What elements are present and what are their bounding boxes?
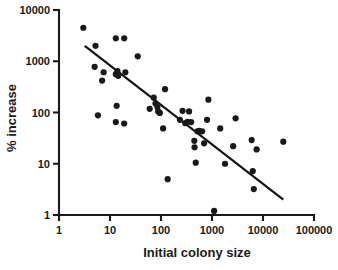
data-point <box>151 95 157 101</box>
data-point <box>114 103 120 109</box>
data-point <box>188 119 194 125</box>
data-point <box>157 110 163 116</box>
y-tick-label: 1000 <box>26 55 50 67</box>
scatter-plot-figure: 110100100010000 110100100010000100000 In… <box>0 0 338 270</box>
data-point <box>280 139 286 145</box>
data-point <box>193 160 199 166</box>
x-tick-label: 100000 <box>296 224 333 236</box>
x-tick-label: 10 <box>104 224 116 236</box>
y-axis: 110100100010000 <box>19 4 59 221</box>
data-point <box>99 77 105 83</box>
data-point <box>179 108 185 114</box>
y-tick-label: 100 <box>32 107 50 119</box>
data-point <box>92 43 98 49</box>
x-tick-label: 1000 <box>200 224 224 236</box>
x-axis: 110100100010000100000 <box>56 215 332 236</box>
data-point <box>204 117 210 123</box>
x-tick-label: 10000 <box>248 224 279 236</box>
data-point <box>122 69 128 75</box>
data-point <box>113 119 119 125</box>
data-points <box>80 25 286 214</box>
chart-canvas: 110100100010000 110100100010000100000 In… <box>0 0 338 270</box>
data-point <box>162 86 168 92</box>
y-tick-label: 10000 <box>19 4 50 16</box>
data-point <box>147 106 153 112</box>
data-point <box>165 176 171 182</box>
data-point <box>254 146 260 152</box>
data-point <box>115 73 121 79</box>
x-tick-label: 1 <box>56 224 62 236</box>
data-point <box>186 108 192 114</box>
y-tick-label: 10 <box>38 158 50 170</box>
data-point <box>95 112 101 118</box>
data-point <box>121 120 127 126</box>
data-point <box>250 168 256 174</box>
x-tick-label: 100 <box>152 224 170 236</box>
data-point <box>135 53 141 59</box>
data-point <box>121 35 127 41</box>
data-point <box>191 138 197 144</box>
data-point <box>191 144 197 150</box>
data-point <box>177 117 183 123</box>
x-axis-title: Initial colony size <box>143 245 251 260</box>
data-point <box>211 208 217 214</box>
data-point <box>217 125 223 131</box>
y-axis-title: % increase <box>4 84 19 152</box>
data-point <box>222 161 228 167</box>
data-point <box>251 186 257 192</box>
data-point <box>201 140 207 146</box>
y-tick-label: 1 <box>44 209 50 221</box>
data-point <box>199 128 205 134</box>
data-point <box>249 137 255 143</box>
data-point <box>232 115 238 121</box>
data-point <box>92 64 98 70</box>
data-point <box>230 143 236 149</box>
data-point <box>205 97 211 103</box>
data-point <box>101 69 107 75</box>
data-point <box>80 25 86 31</box>
data-point <box>113 35 119 41</box>
data-point <box>160 125 166 131</box>
